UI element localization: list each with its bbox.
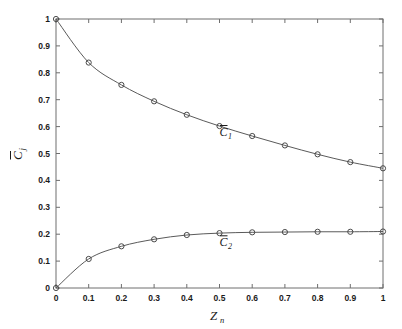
x-tick-label-1: 0.1 [83,293,95,303]
x-tick-label-6: 0.6 [246,293,258,303]
y-tick-label-7: 0.7 [38,95,50,105]
x-axis-title-subscript: n [220,315,224,325]
y-tick-label-5: 0.5 [38,149,50,159]
y-tick-label-10: 1 [45,14,50,24]
x-tick-label-2: 0.2 [115,293,127,303]
y-tick-label-1: 0.1 [38,256,50,266]
x-tick-label-4: 0.4 [181,293,193,303]
x-tick-label-9: 0.9 [344,293,356,303]
series-label-C2: C2 [220,235,233,251]
plot-canvas: 00.10.20.30.40.50.60.70.80.91 00.10.20.3… [0,0,402,329]
data-series-group [53,16,385,290]
y-axis-tick-labels: 00.10.20.30.40.50.60.70.80.91 [38,14,50,293]
x-tick-label-0: 0 [54,293,59,303]
y-tick-label-4: 0.4 [38,175,50,185]
x-axis-tick-labels: 00.10.20.30.40.50.60.70.80.91 [54,293,386,303]
y-tick-label-2: 0.2 [38,229,50,239]
x-axis-title: Z n [210,308,224,325]
y-tick-label-3: 0.3 [38,202,50,212]
series-label-subscript-C1: 1 [228,132,232,141]
y-tick-label-0: 0 [45,283,50,293]
y-tick-label-9: 0.9 [38,41,50,51]
y-axis-title: C j [10,148,27,161]
x-tick-label-8: 0.8 [312,293,324,303]
series-label-C1: C1 [220,125,233,141]
chart-figure: 00.10.20.30.40.50.60.70.80.91 00.10.20.3… [0,0,402,329]
x-tick-label-5: 0.5 [214,293,226,303]
series-label-subscript-C2: 2 [228,242,232,251]
y-tick-label-6: 0.6 [38,122,50,132]
x-tick-label-3: 0.3 [148,293,160,303]
x-tick-label-10: 1 [381,293,386,303]
y-axis-title-text: C [10,151,25,160]
y-axis-title-subscript: j [17,148,27,152]
series-line-C1 [56,19,383,168]
y-tick-label-8: 0.8 [38,68,50,78]
x-axis-title-text: Z [210,308,218,323]
x-tick-label-7: 0.7 [279,293,291,303]
